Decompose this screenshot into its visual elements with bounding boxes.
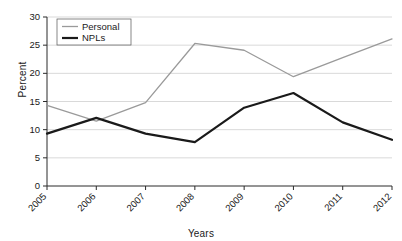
x-tick-label-2005: 2005 [26, 191, 49, 214]
x-tick-label-2009: 2009 [223, 191, 246, 214]
x-tick-label-2007: 2007 [124, 191, 147, 214]
line-chart: Percent 051015202530 2005200620072008200… [0, 0, 402, 241]
y-tick-label-15: 15 [29, 96, 40, 107]
y-tick-label-20: 20 [29, 67, 40, 78]
x-tick-label-2010: 2010 [272, 191, 295, 214]
y-tick-label-0: 0 [35, 180, 40, 191]
y-axis-ticks: 051015202530 [29, 11, 47, 191]
y-tick-label-5: 5 [35, 152, 40, 163]
chart-legend: PersonalNPLs [57, 19, 131, 45]
series-line-npls [47, 93, 392, 142]
plot-area: 051015202530 200520062007200820092010201… [0, 0, 402, 241]
y-tick-label-10: 10 [29, 124, 40, 135]
x-tick-label-2012: 2012 [371, 191, 394, 214]
y-tick-label-25: 25 [29, 39, 40, 50]
series-line-personal [47, 39, 392, 121]
y-tick-label-30: 30 [29, 11, 40, 22]
x-tick-label-2011: 2011 [322, 191, 344, 213]
legend-label-npls: NPLs [82, 32, 105, 43]
x-tick-label-2008: 2008 [174, 191, 197, 214]
x-axis-ticks: 20052006200720082009201020112012 [26, 186, 394, 213]
x-axis-title: Years [0, 228, 402, 239]
data-series [47, 39, 392, 142]
x-tick-label-2006: 2006 [75, 191, 98, 214]
legend-label-personal: Personal [82, 21, 120, 32]
